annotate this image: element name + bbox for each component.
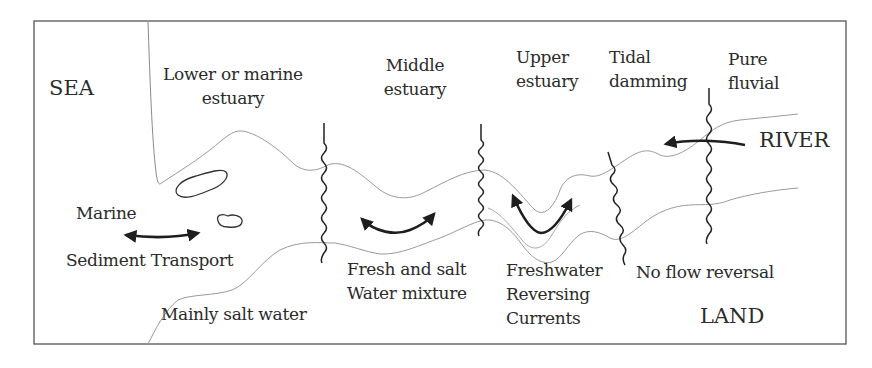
- reversing-currents-arrow: [513, 196, 571, 233]
- zone-middle-line2: estuary: [375, 77, 455, 101]
- zone-lower-line1: Lower or marine: [152, 62, 314, 86]
- boundary-lower-middle: [321, 123, 326, 263]
- estuary-diagram: SEA LAND RIVER Lower or marine estuary M…: [0, 0, 872, 368]
- zone-boundaries: [321, 88, 711, 265]
- mixture-line1: Fresh and salt: [347, 257, 467, 281]
- mainly-salt-water-label: Mainly salt water: [161, 302, 307, 326]
- sea-label: SEA: [49, 76, 94, 100]
- zone-fluvial-line1: Pure: [728, 47, 779, 71]
- freshwater-line3: Currents: [506, 306, 602, 330]
- river-flow-arrow: [666, 141, 745, 145]
- zone-tidal-damming: Tidal damming: [609, 45, 687, 93]
- freshwater-line1: Freshwater: [506, 258, 602, 282]
- river-label: RIVER: [759, 128, 829, 152]
- mixing-arrow: [362, 214, 434, 233]
- mixture-line2: Water mixture: [347, 281, 467, 305]
- island-small: [218, 215, 242, 228]
- freshwater-line2: Reversing: [506, 282, 602, 306]
- sediment-transport-arrow: [126, 233, 198, 237]
- land-label: LAND: [700, 304, 764, 328]
- zone-upper-line1: Upper: [516, 45, 578, 69]
- fresh-salt-mixture-label: Fresh and salt Water mixture: [347, 257, 467, 305]
- zone-upper-estuary: Upper estuary: [516, 45, 578, 93]
- zone-lower-line2: estuary: [152, 86, 314, 110]
- freshwater-reversing-label: Freshwater Reversing Currents: [506, 258, 602, 330]
- zone-tidal-line1: Tidal: [609, 45, 687, 69]
- zone-pure-fluvial: Pure fluvial: [728, 47, 779, 95]
- sediment-transport-label: Sediment Transport: [66, 248, 233, 272]
- boundary-middle-upper: [478, 124, 483, 236]
- zone-middle-line1: Middle: [375, 53, 455, 77]
- zone-middle-estuary: Middle estuary: [375, 53, 455, 101]
- zone-lower-estuary: Lower or marine estuary: [152, 62, 314, 110]
- zone-upper-line2: estuary: [516, 69, 578, 93]
- zone-tidal-line2: damming: [609, 69, 687, 93]
- no-flow-reversal-label: No flow reversal: [636, 260, 774, 284]
- zone-fluvial-line2: fluvial: [728, 71, 779, 95]
- island-large: [176, 170, 227, 197]
- boundary-tidal-fluvial: [706, 88, 711, 244]
- marine-label: Marine: [76, 201, 136, 225]
